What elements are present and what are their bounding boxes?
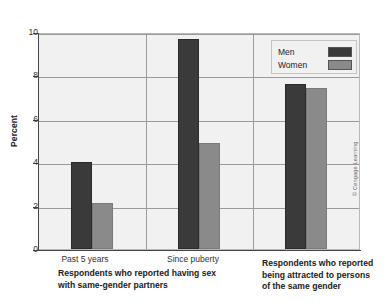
bar-women-past-5-years [92, 203, 113, 249]
gridline-y-8 [39, 77, 359, 78]
bar-chart: Men Women 10 8 6 4 2 0 Percent Past 5 ye… [0, 0, 385, 301]
group-separator-2 [253, 34, 254, 249]
legend-label-men: Men [278, 47, 295, 57]
x-tick-label-since-puberty: Since puberty [148, 254, 238, 264]
caption-left-line-2: with same-gender partners [58, 280, 248, 292]
copyright-credit: © Cengage Learning [352, 126, 358, 196]
bar-women-since-puberty [199, 143, 220, 249]
bar-men-since-puberty [178, 39, 199, 250]
legend-entry-women: Women [278, 58, 352, 71]
x-tick-label-past-5-years: Past 5 years [40, 254, 130, 264]
y-tick-label-10: 10 [14, 28, 38, 37]
caption-right-line-1: Respondents who reported [262, 258, 382, 270]
y-axis-line [38, 33, 39, 251]
caption-right: Respondents who reported being attracted… [262, 258, 382, 293]
group-separator-1 [146, 34, 147, 249]
plot-area: Men Women [38, 33, 360, 250]
caption-left: Respondents who reported having sex with… [58, 268, 248, 291]
caption-left-line-1: Respondents who reported having sex [58, 268, 248, 280]
legend-entry-men: Men [278, 45, 352, 58]
y-tick-label-8: 8 [14, 71, 38, 80]
chart-legend: Men Women [271, 40, 357, 74]
gridline-y-10 [39, 34, 359, 35]
bar-men-past-5-years [71, 162, 92, 249]
y-axis-title: Percent [9, 101, 19, 161]
legend-swatch-women-icon [328, 60, 352, 70]
x-axis-line [38, 250, 361, 251]
bar-men-attraction [285, 84, 306, 249]
legend-label-women: Women [278, 60, 307, 70]
y-tick-label-0: 0 [14, 245, 38, 254]
caption-right-line-2: being attracted to persons [262, 270, 382, 282]
y-tick-label-2: 2 [14, 202, 38, 211]
legend-swatch-men-icon [328, 47, 352, 57]
bar-women-attraction [306, 88, 327, 249]
caption-right-line-3: of the same gender [262, 281, 382, 293]
